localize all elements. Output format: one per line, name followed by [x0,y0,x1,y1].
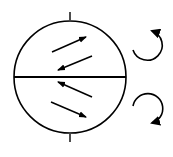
arrow-up-right-icon [52,37,86,52]
diagram-canvas [0,0,173,157]
clockwise-rotation-icon [133,94,163,123]
arrow-up-left-icon [58,82,92,97]
arrow-down-left-icon [58,56,92,70]
arrow-down-right-icon [51,102,86,117]
upper-shear-arrows [52,37,92,70]
lower-shear-arrows [51,82,92,117]
counter-clockwise-rotation-icon [133,31,162,60]
